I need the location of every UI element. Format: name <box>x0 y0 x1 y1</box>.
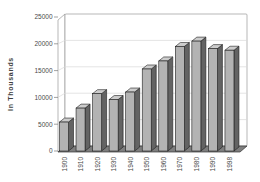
bar-side-face <box>201 37 206 151</box>
bar-1990 <box>208 45 222 151</box>
y-axis-labels: 0500010000150002000025000 <box>34 13 52 154</box>
bar-1960 <box>159 57 173 151</box>
y-tick-label: 10000 <box>34 94 52 101</box>
x-tick-label: 1910 <box>77 157 84 172</box>
bar-1910 <box>76 104 90 151</box>
bar-front-face <box>60 122 69 151</box>
bar-side-face <box>85 104 90 151</box>
x-tick-label: 1900 <box>61 157 68 172</box>
bar-side-face <box>184 42 189 151</box>
bar-chart: 0500010000150002000025000 19001910192019… <box>0 0 260 182</box>
x-tick-label: 1998 <box>226 157 233 172</box>
x-tick-label: 1990 <box>209 157 216 172</box>
bar-side-face <box>151 65 156 151</box>
y-axis-title: In Thousands <box>7 57 14 111</box>
bar-front-face <box>225 50 234 151</box>
x-tick-label: 1930 <box>110 157 117 172</box>
bar-1970 <box>175 42 189 151</box>
x-tick-label: 1980 <box>193 157 200 172</box>
bar-front-face <box>76 108 85 151</box>
y-tick-label: 20000 <box>34 40 52 47</box>
bar-side-face <box>118 96 123 151</box>
bar-side-face <box>217 45 222 151</box>
bar-front-face <box>159 61 168 151</box>
x-tick-label: 1920 <box>94 157 101 172</box>
x-tick-label: 1970 <box>176 157 183 172</box>
y-axis-ticks <box>54 17 58 151</box>
bar-1900 <box>60 118 74 151</box>
plot-area: 0500010000150002000025000 19001910192019… <box>34 13 247 171</box>
y-tick-label: 25000 <box>34 13 52 20</box>
bar-1940 <box>126 88 140 151</box>
bar-front-face <box>126 92 135 151</box>
bar-front-face <box>93 94 102 151</box>
bar-front-face <box>142 69 151 151</box>
x-axis-labels: 1900191019201930194019501960197019801990… <box>61 157 233 172</box>
bar-front-face <box>175 46 184 151</box>
y-tick-label: 15000 <box>34 67 52 74</box>
bar-1950 <box>142 65 156 151</box>
x-tick-label: 1960 <box>160 157 167 172</box>
bar-side-face <box>168 57 173 151</box>
bar-1998 <box>225 46 239 151</box>
x-tick-label: 1950 <box>143 157 150 172</box>
bar-side-face <box>69 118 74 151</box>
bar-front-face <box>109 100 118 151</box>
y-tick-label: 5000 <box>38 121 53 128</box>
bar-1980 <box>192 37 206 151</box>
bar-side-face <box>135 88 140 151</box>
y-tick-label: 0 <box>49 147 53 154</box>
bar-1930 <box>109 96 123 151</box>
bar-1920 <box>93 90 107 151</box>
chart-canvas: 0500010000150002000025000 19001910192019… <box>0 0 260 182</box>
bar-front-face <box>192 41 201 151</box>
bar-side-face <box>234 46 239 151</box>
bar-front-face <box>208 49 217 151</box>
bar-side-face <box>102 90 107 151</box>
x-tick-label: 1940 <box>127 157 134 172</box>
